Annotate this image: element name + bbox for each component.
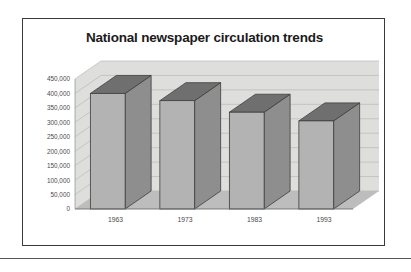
chart-title: National newspaper circulation trends [23,30,386,45]
bar-side-face [264,94,290,209]
y-tick-label: 350,000 [47,104,71,111]
x-axis-ticks: 1963197319831993 [108,216,332,223]
x-tick-label: 1983 [247,216,262,223]
chart-canvas: 450,000400,000350,000300,000250,000200,0… [23,57,386,242]
bar-front-face [229,112,264,209]
figure-page: National newspaper circulation trends 45… [0,0,411,272]
y-tick-label: 400,000 [47,90,71,97]
bar-column [299,103,360,209]
x-tick-label: 1973 [177,216,192,223]
bar-side-face [195,83,221,209]
figure-frame: National newspaper circulation trends 45… [22,18,385,246]
y-tick-label: 100,000 [47,177,71,184]
x-tick-label: 1963 [108,216,123,223]
y-tick-label: 0 [66,205,70,212]
x-tick-label: 1993 [316,216,331,223]
bar-column [160,83,221,209]
y-tick-label: 300,000 [47,119,71,126]
y-tick-label: 250,000 [47,133,71,140]
y-tick-label: 200,000 [47,148,71,155]
bar-front-face [160,101,195,209]
bar-side-face [125,75,151,209]
bar-front-face [90,93,125,209]
bar-column [90,75,151,209]
y-tick-label: 50,000 [50,191,70,198]
bar-front-face [299,121,334,209]
bar-chart-svg: 450,000400,000350,000300,000250,000200,0… [23,57,386,242]
y-tick-label: 450,000 [47,75,71,82]
bar-column [229,94,290,209]
bar-side-face [334,103,360,209]
y-tick-label: 150,000 [47,162,71,169]
page-horizontal-rule [0,258,411,259]
y-axis-ticks: 450,000400,000350,000300,000250,000200,0… [47,75,71,212]
